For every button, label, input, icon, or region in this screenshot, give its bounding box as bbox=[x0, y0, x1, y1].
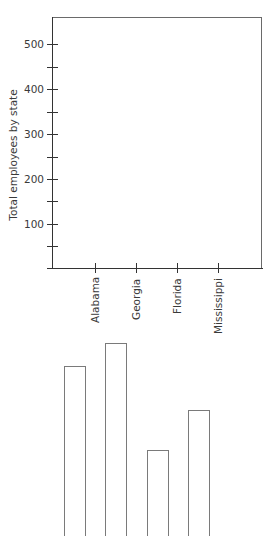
x-label-alabama: Alabama bbox=[89, 277, 101, 323]
y-axis-title: Total employees by state bbox=[7, 89, 19, 220]
cutout-bar-1 bbox=[64, 366, 86, 536]
chart-frame bbox=[52, 17, 262, 268]
x-tick-florida bbox=[177, 263, 178, 273]
y-tick-50 bbox=[47, 246, 58, 247]
y-tick-label-100: 100 bbox=[14, 218, 44, 230]
x-tick-mississippi bbox=[218, 263, 219, 273]
cutout-bar-2 bbox=[105, 343, 127, 536]
x-axis-line bbox=[47, 268, 263, 269]
y-tick-500 bbox=[47, 44, 58, 45]
y-tick-label-300: 300 bbox=[14, 128, 44, 140]
y-tick-350 bbox=[47, 112, 58, 113]
x-label-florida: Florida bbox=[171, 278, 183, 314]
x-label-georgia: Georgia bbox=[130, 279, 142, 320]
y-tick-300 bbox=[47, 134, 58, 135]
y-tick-450 bbox=[47, 67, 58, 68]
x-tick-alabama bbox=[95, 263, 96, 273]
y-tick-400 bbox=[47, 89, 58, 90]
y-tick-label-200: 200 bbox=[14, 173, 44, 185]
cutout-bar-3 bbox=[147, 450, 169, 536]
y-tick-200 bbox=[47, 179, 58, 180]
y-tick-label-400: 400 bbox=[14, 83, 44, 95]
y-tick-150 bbox=[47, 201, 58, 202]
y-axis-line bbox=[52, 17, 53, 269]
x-tick-georgia bbox=[136, 263, 137, 273]
y-tick-100 bbox=[47, 224, 58, 225]
y-tick-250 bbox=[47, 157, 58, 158]
x-label-mississippi: Mississippi bbox=[212, 278, 224, 334]
cutout-bar-4 bbox=[188, 410, 210, 536]
y-tick-label-500: 500 bbox=[14, 38, 44, 50]
